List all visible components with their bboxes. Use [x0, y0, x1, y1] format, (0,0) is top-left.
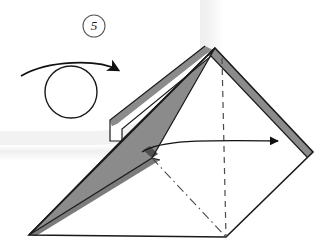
step-number-text: 5 — [83, 15, 105, 37]
origami-diagram-canvas — [0, 0, 334, 248]
origami-diagram-page: 5 — [0, 0, 334, 248]
scan-shadow-lower-band — [0, 145, 110, 161]
